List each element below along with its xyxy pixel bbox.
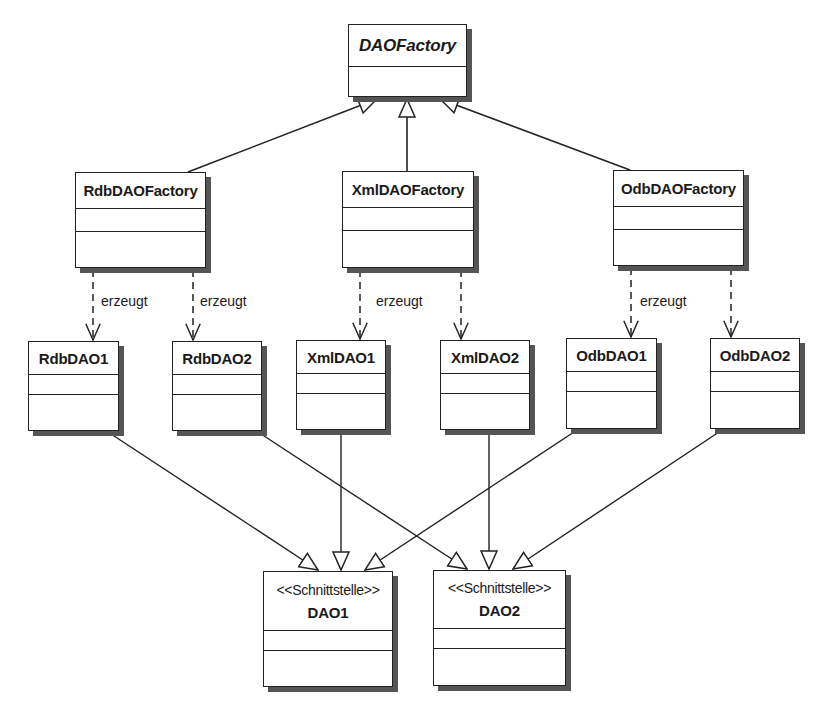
class-xmldao1: XmlDAO1 (296, 340, 386, 430)
class-name: XmlDAO2 (441, 341, 529, 374)
generalization-edges (188, 99, 630, 172)
class-odbdao1: OdbDAO1 (566, 338, 657, 429)
class-name: XmlDAO1 (297, 341, 385, 374)
attributes-compartment (614, 207, 743, 230)
edge-rdbfactory-to-daofactory (188, 99, 377, 172)
realization-edges (108, 430, 722, 570)
class-compartment (349, 67, 466, 96)
operations-compartment (264, 651, 392, 686)
class-name: DAOFactory (349, 25, 466, 67)
relationship-edges (0, 0, 830, 715)
edge-odbfactory-to-daofactory (440, 99, 630, 170)
dependency-label-odb: erzeugt (640, 293, 687, 309)
operations-compartment (434, 649, 565, 685)
class-name: <<Schnittstelle>> DAO1 (264, 572, 392, 631)
class-xmldao2: XmlDAO2 (440, 340, 530, 430)
class-rdbdao2: RdbDAO2 (172, 341, 262, 431)
class-name: OdbDAOFactory (614, 171, 743, 207)
class-odbdao2: OdbDAO2 (710, 338, 800, 429)
class-name: RdbDAO2 (173, 342, 261, 375)
attributes-compartment (441, 374, 529, 394)
attributes-compartment (434, 629, 565, 649)
attributes-compartment (173, 375, 261, 395)
operations-compartment (343, 231, 473, 267)
class-xmldaofactory: XmlDAOFactory (342, 171, 474, 268)
operations-compartment (173, 395, 261, 430)
dependency-label-rdb-1: erzeugt (101, 293, 148, 309)
attributes-compartment (297, 374, 385, 394)
stereotype-label: <<Schnittstelle>> (448, 580, 551, 596)
class-odbdaofactory: OdbDAOFactory (613, 170, 744, 266)
operations-compartment (567, 392, 656, 428)
class-name: <<Schnittstelle>> DAO2 (434, 571, 565, 629)
attributes-compartment (567, 372, 656, 392)
operations-compartment (29, 395, 118, 430)
class-daofactory: DAOFactory (348, 24, 467, 97)
class-name: RdbDAO1 (29, 342, 118, 375)
class-rdbdao1: RdbDAO1 (28, 341, 119, 431)
stereotype-label: <<Schnittstelle>> (276, 582, 379, 598)
operations-compartment (441, 394, 529, 429)
interface-dao1: <<Schnittstelle>> DAO1 (263, 571, 393, 687)
operations-compartment (297, 394, 385, 429)
edge-rdbdao1-to-dao1 (108, 432, 318, 570)
dependency-label-xml: erzeugt (376, 293, 423, 309)
class-name: OdbDAO1 (567, 339, 656, 372)
operations-compartment (76, 232, 205, 267)
attributes-compartment (76, 209, 205, 232)
dependency-label-rdb-2: erzeugt (200, 293, 247, 309)
edge-odbdao1-to-dao1 (365, 430, 577, 570)
operations-compartment (614, 230, 743, 265)
class-name: RdbDAOFactory (76, 173, 205, 209)
interface-dao2: <<Schnittstelle>> DAO2 (433, 570, 566, 686)
edge-rdbdao2-to-dao2 (258, 432, 467, 569)
attributes-compartment (264, 631, 392, 651)
class-name: OdbDAO2 (711, 339, 799, 372)
attributes-compartment (343, 208, 473, 231)
operations-compartment (711, 392, 799, 428)
class-name: XmlDAOFactory (343, 172, 473, 208)
attributes-compartment (29, 375, 118, 395)
class-rdbdaofactory: RdbDAOFactory (75, 172, 206, 268)
attributes-compartment (711, 372, 799, 392)
